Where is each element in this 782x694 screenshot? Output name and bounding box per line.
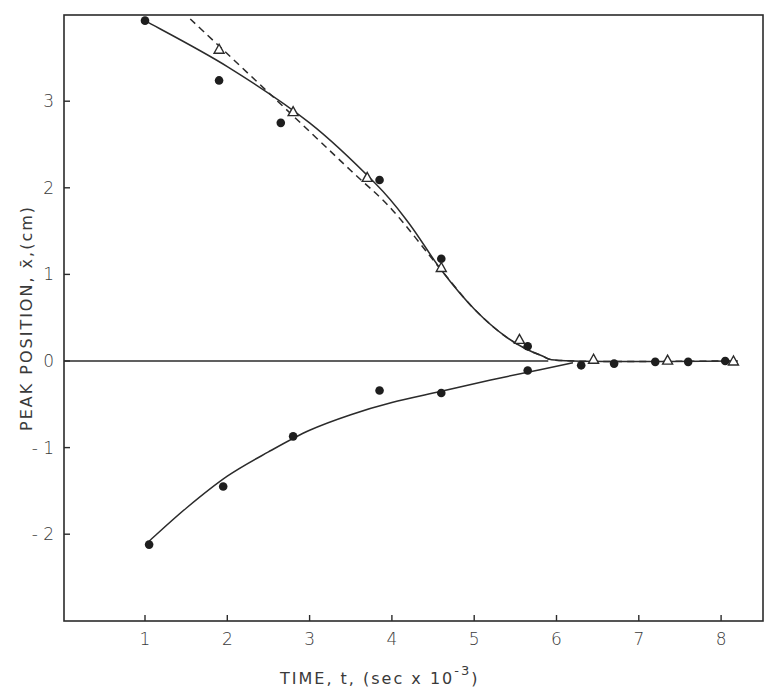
y-tick-label: 0 bbox=[43, 351, 54, 371]
filled-circle-marker bbox=[651, 358, 660, 367]
x-axis-title: TIME, t, (sec x 10-3) bbox=[279, 663, 479, 688]
y-tick-label: - 1 bbox=[32, 438, 54, 458]
filled-circle-marker bbox=[437, 389, 446, 398]
solid-fit-curve bbox=[149, 363, 573, 541]
filled-circle-marker bbox=[684, 358, 693, 367]
open-triangle-marker bbox=[436, 262, 446, 271]
dashed-fit-curve bbox=[190, 19, 737, 362]
open-triangle-marker bbox=[362, 172, 372, 181]
y-tick-label: 2 bbox=[43, 178, 54, 198]
axis-ticks: 123456783210- 1- 2 bbox=[32, 91, 727, 649]
filled-circle-marker bbox=[523, 366, 532, 375]
filled-circle-marker bbox=[276, 119, 285, 128]
solid-fit-curve bbox=[145, 21, 738, 362]
x-tick-label: 6 bbox=[551, 629, 562, 649]
fit-curves bbox=[145, 19, 738, 541]
open-triangle-marker bbox=[663, 355, 673, 364]
y-tick-label: - 2 bbox=[32, 524, 54, 544]
y-axis-title: PEAK POSITION, x̄,(cm) bbox=[17, 205, 36, 431]
x-tick-label: 3 bbox=[304, 629, 315, 649]
x-axis-exponent: -3 bbox=[454, 663, 471, 678]
filled-circle-marker bbox=[215, 76, 224, 85]
filled-circle-marker bbox=[141, 16, 150, 25]
y-tick-label: 3 bbox=[43, 91, 54, 111]
plot-border bbox=[64, 15, 763, 621]
filled-circle-marker bbox=[219, 482, 228, 491]
filled-circle-marker bbox=[610, 359, 619, 368]
data-markers bbox=[141, 16, 739, 549]
open-triangle-marker bbox=[214, 44, 224, 53]
peak-position-chart: 123456783210- 1- 2 TIME, t, (sec x 10-3)… bbox=[0, 0, 782, 694]
open-triangle-marker bbox=[514, 334, 524, 343]
x-tick-label: 1 bbox=[140, 629, 151, 649]
filled-circle-marker bbox=[375, 176, 384, 185]
filled-circle-marker bbox=[145, 540, 154, 549]
filled-circle-marker bbox=[289, 432, 298, 441]
x-tick-label: 5 bbox=[469, 629, 480, 649]
filled-circle-marker bbox=[577, 361, 586, 370]
x-tick-label: 8 bbox=[716, 629, 727, 649]
plot-frame bbox=[64, 15, 763, 621]
x-tick-label: 2 bbox=[222, 629, 233, 649]
y-tick-label: 1 bbox=[43, 264, 54, 284]
x-tick-label: 4 bbox=[386, 629, 397, 649]
open-triangle-marker bbox=[589, 354, 599, 363]
filled-circle-marker bbox=[375, 386, 384, 395]
x-tick-label: 7 bbox=[633, 629, 644, 649]
